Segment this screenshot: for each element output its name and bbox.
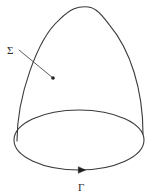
- canvas-background: [0, 0, 157, 195]
- figure-container: Σ Γ: [0, 0, 157, 195]
- sigma-leader-endpoint-dot: [51, 76, 55, 80]
- diagram-canvas: Σ Γ: [0, 0, 157, 195]
- boundary-label-gamma: Γ: [78, 181, 84, 193]
- surface-label-sigma: Σ: [7, 44, 13, 56]
